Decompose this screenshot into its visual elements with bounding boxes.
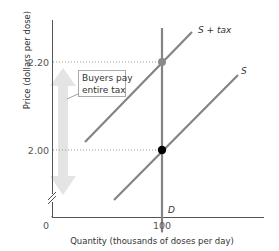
y-axis-label: Price (dollars per dose) (22, 11, 32, 109)
x-axis-label: Quantity (thousands of doses per day) (70, 236, 234, 246)
callout-line2: entire tax (82, 85, 126, 95)
label-s-plus-tax: S + tax (198, 25, 232, 35)
x-tick-100: 100 (153, 220, 171, 231)
double-arrow-icon (50, 68, 76, 195)
x-tick-0: 0 (43, 220, 49, 231)
equilibrium-point (158, 146, 166, 154)
y-tick-2-00: 2.00 (28, 145, 49, 156)
equilibrium-with-tax-point (158, 58, 166, 66)
label-d: D (168, 205, 175, 215)
chart-container: Buyers pay entire tax S + tax S D 2.20 2… (0, 0, 279, 251)
tax-incidence-chart: Buyers pay entire tax S + tax S D 2.20 2… (0, 0, 279, 251)
label-s: S (241, 66, 247, 76)
callout-line1: Buyers pay (82, 73, 133, 83)
